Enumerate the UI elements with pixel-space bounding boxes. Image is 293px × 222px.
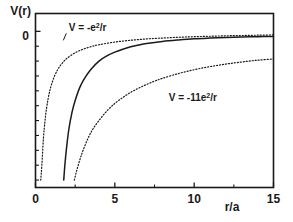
x-tick-label: 5 (111, 192, 118, 206)
annotation-upper: V = -e2/r (69, 22, 107, 34)
y-axis-zero-label: 0 (22, 29, 29, 43)
figure-container: 051015 0 V(r) r/a V = -e2/rV = -11e2/r (0, 0, 293, 222)
x-tick-label: 10 (187, 192, 201, 206)
x-tick-label: 0 (32, 192, 39, 206)
x-axis-title: r/a (225, 200, 240, 214)
annotation-lower: V = -11e2/r (169, 92, 217, 104)
plot-background (0, 0, 293, 222)
potential-plot: 051015 0 V(r) r/a V = -e2/rV = -11e2/r (0, 0, 293, 222)
y-axis-title: V(r) (10, 4, 31, 18)
x-tick-label: 15 (267, 192, 281, 206)
